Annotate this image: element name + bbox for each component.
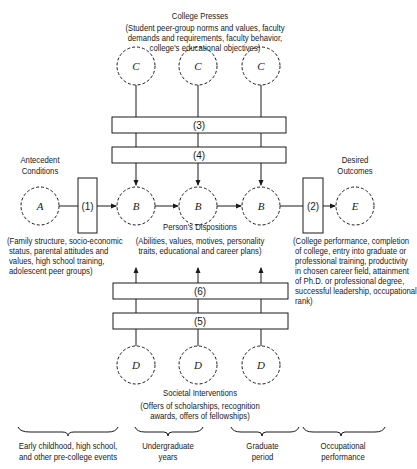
period-label-graduate-1: Graduate <box>230 441 295 452</box>
box-label-4: (4) <box>193 150 205 161</box>
period-label-precollege-2: and other pre-college events <box>16 452 119 463</box>
node-letter-e: E <box>351 200 359 212</box>
period-brace-4 <box>303 427 385 436</box>
interventions-desc-2: awards, offers of fellowships) <box>114 411 286 422</box>
period-label-precollege-1: Early childhood, high school, <box>16 441 119 452</box>
node-letter-c2: C <box>194 60 202 72</box>
node-letter-d2: D <box>193 359 202 371</box>
node-letter-b2: B <box>195 200 202 212</box>
period-label-undergrad-1: Undergraduate <box>134 441 203 452</box>
outcomes-desc-6: successful leadership, occupational <box>295 286 417 297</box>
period-brace-1 <box>18 427 118 436</box>
box-label-3: (3) <box>193 120 205 131</box>
box-label-6: (6) <box>194 286 206 297</box>
antecedent-desc-4: adolescent peer groups) <box>9 266 92 277</box>
period-label-graduate-2: period <box>230 452 295 463</box>
period-label-occupational-1: Occupational <box>309 441 378 452</box>
node-letter-d1: D <box>131 359 140 371</box>
college-presses-title: College Presses <box>114 11 286 22</box>
node-letter-b1: B <box>133 200 140 212</box>
box-label-1: (1) <box>81 201 93 212</box>
dispositions-desc-2: traits, educational and career plans) <box>123 246 278 257</box>
period-brace-3 <box>231 427 299 436</box>
node-letter-a: A <box>36 200 44 212</box>
antecedent-title-1: Antecedent <box>6 155 75 166</box>
antecedent-title-2: Conditions <box>6 166 75 177</box>
college-presses-desc-3: college's educational objectives) <box>80 43 329 54</box>
node-letter-c1: C <box>132 60 140 72</box>
interventions-title: Societal Interventions <box>131 388 269 399</box>
box-label-5: (5) <box>194 316 206 327</box>
node-letter-c3: C <box>257 60 265 72</box>
outcomes-title-1: Desired <box>321 155 390 166</box>
period-label-occupational-2: performance <box>309 452 378 463</box>
outcomes-title-2: Outcomes <box>321 166 390 177</box>
node-letter-d3: D <box>256 359 265 371</box>
period-label-undergrad-2: years <box>134 452 203 463</box>
box-label-2: (2) <box>307 201 319 212</box>
dispositions-title: Person's Dispositions <box>140 222 260 233</box>
period-brace-2 <box>135 427 203 436</box>
node-letter-b3: B <box>258 200 265 212</box>
outcomes-desc-7: rank) <box>295 296 313 307</box>
